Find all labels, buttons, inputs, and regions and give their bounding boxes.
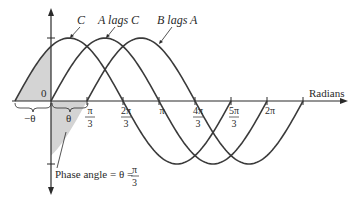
svg-text:3: 3: [88, 118, 93, 129]
svg-text:2π: 2π: [121, 105, 131, 116]
x-tick-label: 5π3: [229, 105, 239, 129]
label-curve-c: C: [77, 13, 86, 27]
brace-negative-theta: [15, 103, 51, 112]
y-axis-up-arrow-icon: [48, 8, 54, 16]
label-phase-num: π: [132, 164, 137, 175]
y-axis-down-arrow-icon: [48, 187, 54, 195]
svg-text:5π: 5π: [229, 105, 239, 116]
label-origin: 0: [41, 87, 47, 99]
x-tick-label: 2π: [265, 105, 275, 116]
svg-text:3: 3: [124, 118, 129, 129]
label-radians: Radians: [309, 87, 344, 99]
label-curve-b: B lags A: [157, 13, 198, 27]
svg-text:3: 3: [232, 118, 237, 129]
leader-b-arrow-icon: [159, 40, 163, 44]
phase-diagram: C A lags C B lags A Radians 0 −θ θ π32π3…: [0, 0, 355, 199]
svg-text:π: π: [87, 105, 92, 116]
x-tick-label: π: [159, 105, 164, 116]
svg-text:2π: 2π: [265, 105, 275, 116]
label-phase-angle: Phase angle = θ =: [55, 168, 133, 180]
svg-text:4π: 4π: [193, 105, 203, 116]
label-phase-den: 3: [132, 177, 137, 188]
label-neg-theta: −θ: [24, 112, 35, 124]
x-tick-label: π3: [85, 105, 95, 129]
x-tick-label: 4π3: [193, 105, 203, 129]
svg-text:π: π: [159, 105, 164, 116]
label-curve-a: A lags C: [97, 13, 140, 27]
x-tick-label: 2π3: [121, 105, 131, 129]
svg-text:3: 3: [196, 118, 201, 129]
label-theta: θ: [66, 112, 71, 124]
x-tick-labels: π32π3π4π35π32π: [85, 105, 275, 129]
leader-b: [160, 27, 172, 43]
